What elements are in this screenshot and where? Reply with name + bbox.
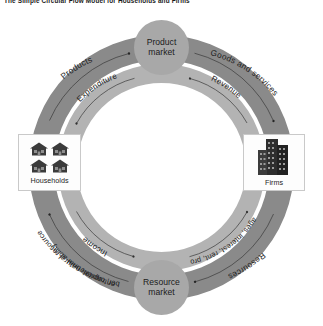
inner-ring [68, 74, 256, 262]
resource-market-label-line2: market [148, 287, 175, 297]
households-label: Households [31, 176, 69, 185]
houses-icon [29, 141, 70, 174]
product-market-label-line1: Product [147, 37, 177, 47]
page-title: The Simple Circular Flow Model for House… [4, 0, 190, 5]
households-box[interactable]: Households [18, 134, 81, 191]
firms-box[interactable]: Firms [243, 134, 305, 191]
product-market-label-line2: market [148, 47, 175, 57]
diagram-canvas: The Simple Circular Flow Model for House… [0, 0, 323, 326]
firms-label: Firms [265, 178, 283, 187]
buildings-icon [252, 138, 296, 176]
resource-market-label-line1: Resource [143, 277, 180, 287]
